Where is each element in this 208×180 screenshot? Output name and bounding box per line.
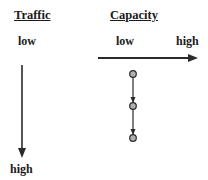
traffic-axis-arrow: [18, 65, 26, 158]
path-node-2: [130, 103, 137, 110]
capacity-path: [130, 71, 137, 142]
capacity-axis-arrow: [98, 54, 198, 62]
path-node-3: [130, 135, 137, 142]
path-node-1: [130, 71, 137, 78]
diagram-canvas: [0, 0, 208, 180]
